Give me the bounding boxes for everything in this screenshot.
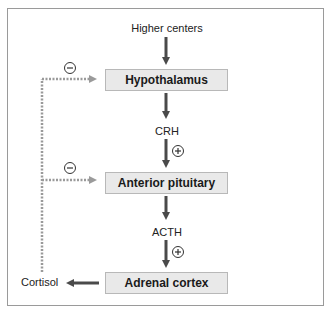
minus-icon — [65, 163, 76, 174]
feedback-loop — [42, 79, 93, 272]
plus-icon — [173, 247, 184, 258]
plus-icon — [173, 146, 184, 157]
minus-icon — [65, 63, 76, 74]
arrows-layer — [0, 0, 327, 316]
